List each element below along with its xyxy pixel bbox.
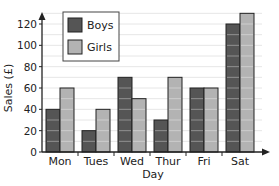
legend-swatch-boys: [68, 18, 82, 32]
y-tick-label: 120: [17, 18, 37, 30]
chart-canvas: MonTuesWedThurFriSat020406080100120Sales…: [0, 0, 279, 186]
y-tick-label: 40: [24, 103, 37, 115]
bar-girls-sat: [240, 13, 254, 152]
bar-boys-thur: [154, 120, 168, 152]
bar-chart: MonTuesWedThurFriSat020406080100120Sales…: [0, 0, 279, 186]
bar-group-wed: Wed: [114, 77, 146, 168]
legend-swatch-girls: [68, 40, 82, 54]
x-tick-label: Tues: [83, 155, 109, 168]
x-tick-label: Fri: [197, 155, 210, 168]
x-axis-arrow-icon: [262, 149, 270, 156]
x-tick-label: Thur: [154, 155, 181, 168]
y-axis-label: Sales (£): [2, 64, 15, 112]
bar-group-tues: Tues: [78, 109, 110, 168]
legend: BoysGirls: [63, 12, 119, 61]
legend-label-boys: Boys: [87, 19, 114, 32]
x-axis-label: Day: [142, 168, 164, 181]
bar-group-sat: Sat: [222, 13, 254, 168]
x-tick-label: Mon: [48, 155, 71, 168]
bar-girls-thur: [168, 77, 182, 152]
bar-boys-wed: [118, 77, 132, 152]
bar-group-mon: Mon: [46, 88, 74, 168]
bar-group-thur: Thur: [150, 77, 182, 168]
y-tick-label: 60: [24, 82, 37, 94]
legend-label-girls: Girls: [87, 41, 112, 54]
y-tick-label: 80: [24, 61, 37, 73]
y-tick-label: 0: [30, 146, 37, 158]
y-tick-label: 20: [24, 125, 37, 137]
y-tick-label: 100: [17, 39, 37, 51]
x-tick-label: Sat: [231, 155, 250, 168]
bar-group-fri: Fri: [186, 88, 218, 168]
x-tick-label: Wed: [120, 155, 144, 168]
bar-girls-wed: [132, 99, 146, 152]
